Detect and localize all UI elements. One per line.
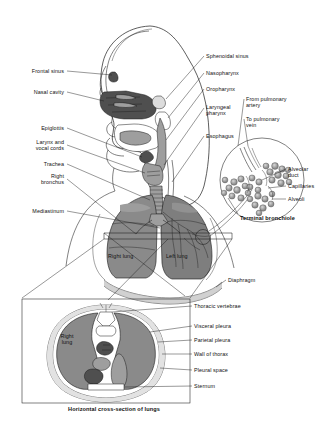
leader-lines-cross-section [0,0,331,421]
respiratory-system-figure: .ln{fill:none;stroke:#1a1a1a;stroke-widt… [0,0,331,421]
